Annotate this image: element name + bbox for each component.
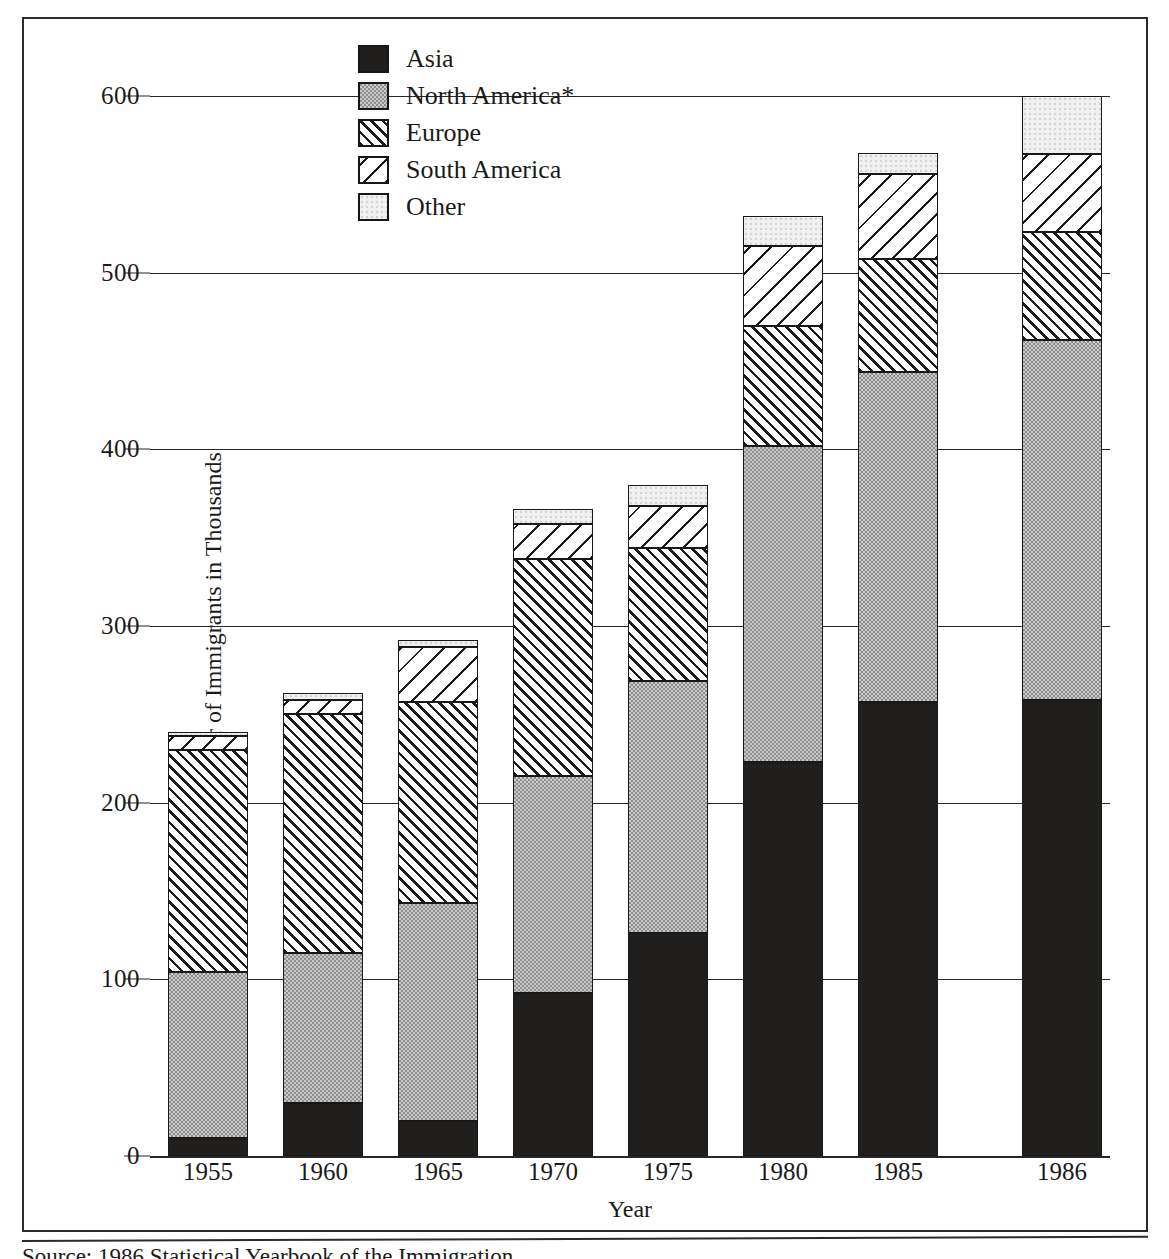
legend-item-other[interactable]: Other bbox=[358, 188, 574, 225]
bar-segment-europe-1986[interactable] bbox=[1022, 232, 1102, 340]
legend-swatch-northamerica-icon bbox=[358, 82, 389, 110]
bar-segment-asia-1965[interactable] bbox=[398, 1121, 478, 1156]
legend-swatch-other-icon bbox=[358, 193, 389, 221]
legend-swatch-asia-icon bbox=[358, 45, 389, 73]
bar-segment-other-1986[interactable] bbox=[1022, 96, 1102, 154]
bar-segment-europe-1960[interactable] bbox=[283, 714, 363, 953]
legend-label: Other bbox=[406, 192, 465, 222]
bar-1960[interactable] bbox=[283, 693, 363, 1156]
bar-segment-asia-1970[interactable] bbox=[513, 993, 593, 1156]
bar-segment-southamerica-1955[interactable] bbox=[168, 736, 248, 750]
y-tick-label-600: 600 bbox=[101, 82, 140, 110]
x-tick-label-1955: 1955 bbox=[183, 1158, 233, 1186]
x-axis-tick-labels: 19551960196519701975198019851986 bbox=[150, 1158, 1110, 1198]
bar-1970[interactable] bbox=[513, 509, 593, 1156]
legend-swatch-southamerica-icon bbox=[358, 156, 389, 184]
bar-segment-northamerica-1965[interactable] bbox=[398, 903, 478, 1120]
bar-segment-europe-1980[interactable] bbox=[743, 326, 823, 446]
gridline-500 bbox=[150, 273, 1110, 274]
bar-segment-southamerica-1980[interactable] bbox=[743, 246, 823, 326]
bar-segment-northamerica-1960[interactable] bbox=[283, 953, 363, 1103]
bar-segment-asia-1955[interactable] bbox=[168, 1138, 248, 1156]
plot-area: 0100200300400500600 bbox=[150, 96, 1110, 1156]
bar-segment-asia-1975[interactable] bbox=[628, 933, 708, 1156]
legend-item-northamerica[interactable]: North America* bbox=[358, 77, 574, 114]
x-tick-label-1980: 1980 bbox=[758, 1158, 808, 1186]
bar-segment-southamerica-1975[interactable] bbox=[628, 506, 708, 548]
legend-item-asia[interactable]: Asia bbox=[358, 40, 574, 77]
bar-1986[interactable] bbox=[1022, 96, 1102, 1156]
bar-segment-europe-1970[interactable] bbox=[513, 559, 593, 776]
y-tick-label-300: 300 bbox=[101, 612, 140, 640]
bar-1975[interactable] bbox=[628, 485, 708, 1156]
bar-1965[interactable] bbox=[398, 640, 478, 1156]
y-tick-label-500: 500 bbox=[101, 259, 140, 287]
bar-segment-europe-1955[interactable] bbox=[168, 750, 248, 973]
legend-item-southamerica[interactable]: South America bbox=[358, 151, 574, 188]
y-tick-label-0: 0 bbox=[127, 1142, 140, 1170]
legend-label: South America bbox=[406, 155, 561, 185]
legend-label: Asia bbox=[406, 44, 454, 74]
x-tick-label-1975: 1975 bbox=[643, 1158, 693, 1186]
bar-segment-europe-1965[interactable] bbox=[398, 702, 478, 903]
bar-segment-other-1975[interactable] bbox=[628, 485, 708, 506]
x-axis-label: Year bbox=[150, 1196, 1110, 1223]
x-tick-label-1970: 1970 bbox=[528, 1158, 578, 1186]
bar-segment-southamerica-1986[interactable] bbox=[1022, 154, 1102, 232]
bar-segment-northamerica-1986[interactable] bbox=[1022, 340, 1102, 700]
bar-segment-asia-1985[interactable] bbox=[858, 702, 938, 1156]
bar-segment-southamerica-1965[interactable] bbox=[398, 647, 478, 702]
bar-segment-northamerica-1970[interactable] bbox=[513, 776, 593, 993]
x-tick-label-1965: 1965 bbox=[413, 1158, 463, 1186]
bar-segment-other-1965[interactable] bbox=[398, 640, 478, 647]
bar-segment-asia-1986[interactable] bbox=[1022, 700, 1102, 1156]
y-tick-label-400: 400 bbox=[101, 435, 140, 463]
legend-swatch-europe-icon bbox=[358, 119, 389, 147]
bar-segment-europe-1985[interactable] bbox=[858, 259, 938, 372]
figure-bottom-rule bbox=[22, 1236, 1148, 1242]
gridline-400 bbox=[150, 449, 1110, 450]
bar-segment-asia-1980[interactable] bbox=[743, 762, 823, 1156]
bar-segment-other-1960[interactable] bbox=[283, 693, 363, 700]
bar-segment-other-1970[interactable] bbox=[513, 509, 593, 523]
x-tick-label-1986: 1986 bbox=[1037, 1158, 1087, 1186]
bar-segment-asia-1960[interactable] bbox=[283, 1103, 363, 1156]
bar-segment-northamerica-1975[interactable] bbox=[628, 681, 708, 934]
chart-figure: Number of Immigrants in Thousands 010020… bbox=[0, 0, 1169, 1259]
bar-segment-southamerica-1970[interactable] bbox=[513, 524, 593, 559]
bar-segment-northamerica-1955[interactable] bbox=[168, 972, 248, 1138]
legend-label: North America* bbox=[406, 81, 574, 111]
bar-1955[interactable] bbox=[168, 732, 248, 1156]
bar-segment-southamerica-1960[interactable] bbox=[283, 700, 363, 714]
bar-segment-northamerica-1980[interactable] bbox=[743, 446, 823, 762]
legend-label: Europe bbox=[406, 118, 481, 148]
bar-segment-other-1985[interactable] bbox=[858, 153, 938, 174]
bar-1980[interactable] bbox=[743, 216, 823, 1156]
bar-segment-southamerica-1985[interactable] bbox=[858, 174, 938, 259]
bar-segment-other-1980[interactable] bbox=[743, 216, 823, 246]
x-tick-label-1985: 1985 bbox=[873, 1158, 923, 1186]
bar-segment-northamerica-1985[interactable] bbox=[858, 372, 938, 702]
source-note: Source: 1986 Statistical Yearbook of the… bbox=[22, 1244, 513, 1259]
legend-item-europe[interactable]: Europe bbox=[358, 114, 574, 151]
bar-1985[interactable] bbox=[858, 153, 938, 1156]
x-tick-label-1960: 1960 bbox=[298, 1158, 348, 1186]
bar-segment-other-1955[interactable] bbox=[168, 732, 248, 736]
chart-legend: AsiaNorth America*EuropeSouth AmericaOth… bbox=[358, 40, 574, 225]
y-tick-label-200: 200 bbox=[101, 789, 140, 817]
gridline-600 bbox=[150, 96, 1110, 97]
y-tick-label-100: 100 bbox=[101, 965, 140, 993]
bar-segment-europe-1975[interactable] bbox=[628, 548, 708, 681]
